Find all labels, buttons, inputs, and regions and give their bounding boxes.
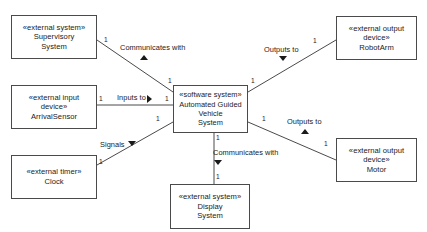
multiplicity-m-agv-right: 1: [262, 115, 266, 122]
association-label-agv-motor: Outputs to: [287, 117, 322, 126]
class-box-name-line2: System: [41, 42, 67, 52]
class-box-name-line1: Supervisory: [34, 32, 75, 42]
association-label-agv-display: Communicates with: [213, 148, 278, 157]
class-box-stereotype: «external timer»: [26, 167, 81, 177]
class-box-agv[interactable]: «software system»Automated Guided Vehicl…: [173, 85, 248, 133]
class-box-arrival_sensor[interactable]: «external inputdevice»ArrivalSensor: [11, 85, 97, 129]
class-box-name-line2: ArrivalSensor: [31, 112, 77, 122]
class-box-stereotype: «external system»: [179, 192, 241, 202]
direction-triangle-down-icon: [214, 160, 222, 165]
direction-triangle-down-icon: [128, 141, 136, 146]
multiplicity-m-robotarm: 1: [313, 37, 317, 44]
multiplicity-m-arrivalsensor: 1: [99, 95, 103, 102]
direction-triangle-up-icon: [140, 55, 148, 60]
class-box-stereotype: «external output: [349, 24, 404, 34]
class-box-supervisory[interactable]: «external system»SupervisorySystem: [11, 15, 97, 59]
multiplicity-m-agv-left: 1: [165, 95, 169, 102]
class-box-name-line1: device»: [363, 33, 390, 43]
class-box-motor[interactable]: «external outputdevice»Motor: [336, 138, 417, 182]
class-box-name-line1: Clock: [44, 177, 63, 187]
multiplicity-m-motor: 1: [324, 140, 328, 147]
class-box-display[interactable]: «external system»DisplaySystem: [170, 184, 250, 229]
class-box-stereotype: «external output: [349, 146, 404, 156]
class-box-name-line2: RobotArm: [359, 43, 394, 53]
association-label-arrivalsensor-agv: Inputs to: [117, 93, 146, 102]
class-box-name-line2: System: [197, 211, 223, 221]
class-box-stereotype: «external input: [29, 93, 80, 103]
class-box-name-line1: Display: [197, 202, 222, 212]
multiplicity-m-agv-top-right: 1: [251, 77, 255, 84]
class-box-stereotype: «external system»: [23, 23, 85, 33]
class-box-name-line1: device»: [41, 102, 68, 112]
class-box-name-line2: System: [198, 118, 223, 127]
multiplicity-m-clock: 1: [99, 158, 103, 165]
class-box-clock[interactable]: «external timer»Clock: [11, 155, 97, 199]
class-box-stereotype: «software system»: [179, 90, 241, 99]
direction-triangle-right-icon: [147, 95, 152, 103]
association-label-supervisory-agv: Communicates with: [120, 43, 185, 52]
multiplicity-m-display: 1: [216, 173, 220, 180]
multiplicity-m-agv-top-left: 1: [168, 77, 172, 84]
multiplicity-m-supervisory: 1: [104, 36, 108, 43]
multiplicity-m-agv-bottom-left: 1: [156, 115, 160, 122]
association-label-clock-agv: Signals: [100, 140, 125, 149]
multiplicity-m-agv-bottom: 1: [216, 134, 220, 141]
association-label-agv-robotarm: Outputs to: [264, 45, 299, 54]
direction-triangle-up-icon: [301, 129, 309, 134]
direction-triangle-down-icon: [279, 56, 287, 61]
class-box-name-line1: Automated Guided Vehicle: [174, 100, 247, 119]
class-box-name-line2: Motor: [367, 165, 387, 175]
class-box-name-line1: device»: [363, 155, 390, 165]
class-box-robot_arm[interactable]: «external outputdevice»RobotArm: [336, 16, 417, 60]
uml-context-diagram-canvas: «external system»SupervisorySystem«exter…: [0, 0, 427, 232]
